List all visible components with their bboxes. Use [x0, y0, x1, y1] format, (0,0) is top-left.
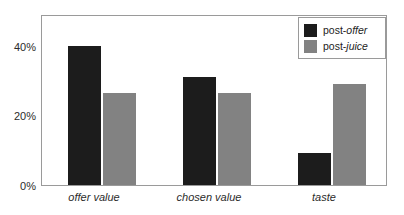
legend: post-offer post-juice: [298, 17, 386, 59]
x-axis-label-offer-value: offer value: [47, 192, 141, 203]
legend-label-post-juice: post-juice: [323, 41, 368, 52]
legend-item-post-offer: post-offer: [304, 22, 380, 38]
x-axis-label-taste: taste: [277, 192, 371, 203]
bar-chart-figure: 40% 20% 0% offer value chosen value tast…: [0, 0, 404, 215]
bar-taste-post-offer: [298, 153, 331, 185]
bar-offer-value-post-juice: [103, 93, 136, 185]
bar-taste-post-juice: [333, 84, 366, 185]
bar-chosen-value-post-juice: [218, 93, 251, 185]
legend-swatch-icon-post-offer: [304, 24, 317, 37]
bar-offer-value-post-offer: [68, 46, 101, 185]
y-axis-tick-label-20: 20%: [0, 111, 36, 122]
legend-label-prefix-post-juice: post-: [323, 40, 346, 52]
legend-item-post-juice: post-juice: [304, 38, 380, 54]
legend-label-post-offer: post-offer: [323, 25, 367, 36]
y-axis-tick-label-0: 0%: [0, 181, 36, 192]
bar-chosen-value-post-offer: [183, 77, 216, 185]
legend-label-emphasis-post-offer: offer: [346, 24, 367, 36]
legend-swatch-icon-post-juice: [304, 40, 317, 53]
legend-label-prefix-post-offer: post-: [323, 24, 346, 36]
x-axis-label-chosen-value: chosen value: [162, 192, 256, 203]
y-axis-tick-label-40: 40%: [0, 42, 36, 53]
legend-label-emphasis-post-juice: juice: [346, 40, 368, 52]
